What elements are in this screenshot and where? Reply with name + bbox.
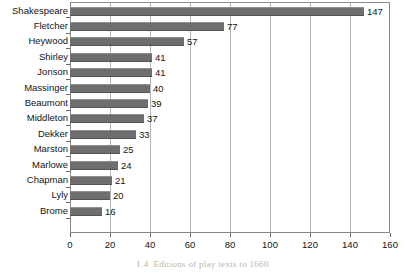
bar-value-label: 25	[123, 143, 134, 156]
bar-middleton	[70, 114, 144, 123]
bar-row: 37	[70, 111, 390, 126]
figure-caption: 1.4Editions of play texts to 1660	[0, 258, 405, 270]
bar-value-label: 33	[139, 128, 150, 141]
y-tick-mark	[66, 202, 70, 203]
category-label-brome: Brome	[0, 204, 68, 217]
x-tick-mark-60	[190, 233, 191, 237]
bar-shirley	[70, 53, 152, 62]
category-label-chapman: Chapman	[0, 173, 68, 186]
figure-bar-chart-editions: ShakespeareFletcherHeywoodShirleyJonsonM…	[0, 0, 405, 274]
bar-value-label: 77	[227, 20, 238, 33]
x-tick-label-40: 40	[133, 239, 167, 251]
bar-value-label: 41	[155, 66, 166, 79]
x-tick-label-0: 0	[53, 239, 87, 251]
bar-value-label: 147	[367, 5, 383, 18]
bar-marlowe	[70, 161, 118, 170]
y-tick-mark	[66, 33, 70, 34]
bar-marston	[70, 145, 120, 154]
bar-value-label: 24	[121, 159, 132, 172]
bar-row: 20	[70, 188, 390, 203]
y-tick-mark	[66, 17, 70, 18]
bar-brome	[70, 207, 102, 216]
bar-value-label: 40	[153, 82, 164, 95]
x-tick-mark-160	[390, 233, 391, 237]
bar-dekker	[70, 130, 136, 139]
bar-row: 39	[70, 96, 390, 111]
bar-heywood	[70, 37, 184, 46]
category-label-shirley: Shirley	[0, 50, 68, 63]
y-tick-mark	[66, 110, 70, 111]
y-tick-mark	[66, 187, 70, 188]
bar-row: 57	[70, 34, 390, 49]
x-tick-mark-100	[270, 233, 271, 237]
x-tick-label-140: 140	[333, 239, 367, 251]
bar-fletcher	[70, 22, 224, 31]
y-tick-mark	[66, 48, 70, 49]
category-label-massinger: Massinger	[0, 81, 68, 94]
x-tick-label-120: 120	[293, 239, 327, 251]
bar-value-label: 41	[155, 51, 166, 64]
x-tick-label-60: 60	[173, 239, 207, 251]
bar-value-label: 20	[113, 189, 124, 202]
category-label-beaumont: Beaumont	[0, 96, 68, 109]
bar-value-label: 21	[115, 174, 126, 187]
bar-row: 33	[70, 127, 390, 142]
bar-row: 41	[70, 50, 390, 65]
category-label-middleton: Middleton	[0, 111, 68, 124]
x-tick-mark-40	[150, 233, 151, 237]
caption-number: 1.4	[136, 259, 148, 269]
x-tick-mark-140	[350, 233, 351, 237]
y-tick-mark	[66, 171, 70, 172]
y-tick-mark	[66, 141, 70, 142]
category-label-lyly: Lyly	[0, 188, 68, 201]
bar-row: 25	[70, 142, 390, 157]
bar-value-label: 16	[105, 205, 116, 218]
y-tick-mark	[66, 125, 70, 126]
y-tick-mark	[66, 64, 70, 65]
bar-shakespeare	[70, 7, 364, 16]
bar-beaumont	[70, 99, 148, 108]
category-label-marlowe: Marlowe	[0, 158, 68, 171]
x-tick-mark-120	[310, 233, 311, 237]
y-tick-mark	[66, 79, 70, 80]
bar-jonson	[70, 68, 152, 77]
y-tick-mark	[66, 156, 70, 157]
category-label-dekker: Dekker	[0, 127, 68, 140]
category-axis-labels: ShakespeareFletcherHeywoodShirleyJonsonM…	[0, 2, 68, 233]
bar-row: 41	[70, 65, 390, 80]
bar-lyly	[70, 191, 110, 200]
x-tick-label-20: 20	[93, 239, 127, 251]
x-tick-label-80: 80	[213, 239, 247, 251]
caption-text: Editions of play texts to 1660	[153, 259, 268, 269]
bar-row: 24	[70, 158, 390, 173]
x-tick-label-160: 160	[373, 239, 405, 251]
x-tick-mark-80	[230, 233, 231, 237]
category-label-marston: Marston	[0, 142, 68, 155]
bar-row: 16	[70, 204, 390, 219]
y-tick-mark	[66, 94, 70, 95]
bar-value-label: 37	[147, 112, 158, 125]
x-tick-mark-20	[110, 233, 111, 237]
bar-row: 77	[70, 19, 390, 34]
bar-value-label: 57	[187, 35, 198, 48]
category-label-jonson: Jonson	[0, 65, 68, 78]
y-tick-mark	[66, 218, 70, 219]
bar-row: 40	[70, 81, 390, 96]
category-label-heywood: Heywood	[0, 34, 68, 47]
bar-value-label: 39	[151, 97, 162, 110]
bar-row: 147	[70, 4, 390, 19]
bars-container: 14777574141403937332524212016	[70, 2, 390, 233]
x-tick-mark-0	[70, 233, 71, 237]
x-tick-label-100: 100	[253, 239, 287, 251]
category-label-fletcher: Fletcher	[0, 19, 68, 32]
bar-massinger	[70, 84, 150, 93]
category-label-shakespeare: Shakespeare	[0, 4, 68, 17]
bar-row: 21	[70, 173, 390, 188]
bar-chapman	[70, 176, 112, 185]
